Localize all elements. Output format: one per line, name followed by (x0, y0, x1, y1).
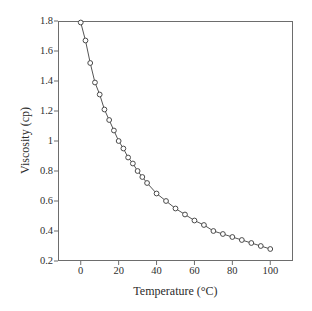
y-tick-label: 1.4 (40, 76, 53, 86)
viscosity-data-markers (78, 20, 272, 251)
y-axis-title: Viscosity (cp) (18, 71, 33, 211)
data-point-marker (164, 199, 169, 204)
x-axis-ticks (81, 261, 271, 265)
y-tick-label: 1 (48, 136, 53, 146)
x-tick-label: 60 (189, 266, 200, 276)
x-tick-label: 0 (78, 266, 83, 276)
data-point-marker (135, 169, 140, 174)
y-tick-label: 0.4 (40, 226, 53, 236)
y-tick-label: 0.6 (40, 196, 53, 206)
data-point-marker (202, 223, 207, 228)
data-point-marker (93, 80, 98, 85)
data-point-marker (116, 139, 121, 144)
data-point-marker (249, 241, 254, 246)
data-point-marker (239, 238, 244, 243)
data-point-marker (126, 155, 131, 160)
x-tick-label: 80 (227, 266, 238, 276)
y-axis-ticks (54, 21, 58, 261)
data-point-marker (83, 38, 88, 43)
data-point-marker (140, 175, 145, 180)
data-point-marker (230, 235, 235, 240)
y-tick-label: 0.2 (40, 256, 53, 266)
data-point-marker (154, 191, 159, 196)
data-point-marker (258, 244, 263, 249)
data-point-marker (268, 247, 273, 252)
x-axis-title: Temperature (°C) (58, 284, 293, 299)
x-tick-label: 20 (113, 266, 124, 276)
data-point-marker (130, 161, 135, 166)
y-tick-label: 1.2 (40, 106, 53, 116)
viscosity-temperature-chart: 0.20.40.60.811.21.41.61.8 020406080100 T… (0, 0, 312, 311)
data-point-marker (211, 229, 216, 234)
y-tick-label: 1.8 (40, 16, 53, 26)
x-tick-label: 40 (151, 266, 162, 276)
data-point-marker (121, 146, 126, 151)
data-point-marker (97, 92, 102, 97)
data-point-marker (88, 61, 93, 66)
x-tick-label: 100 (262, 266, 278, 276)
y-tick-label: 0.8 (40, 166, 53, 176)
data-point-marker (173, 206, 178, 211)
data-point-marker (220, 232, 225, 237)
data-point-marker (112, 128, 117, 133)
y-tick-label: 1.6 (40, 46, 53, 56)
data-point-marker (145, 181, 150, 186)
data-point-marker (78, 20, 83, 25)
data-point-marker (192, 218, 197, 223)
data-point-marker (107, 118, 112, 123)
viscosity-curve-line (81, 23, 271, 250)
data-point-marker (183, 212, 188, 217)
x-axis-tick-labels: 020406080100 (0, 266, 312, 282)
data-point-marker (102, 107, 107, 112)
